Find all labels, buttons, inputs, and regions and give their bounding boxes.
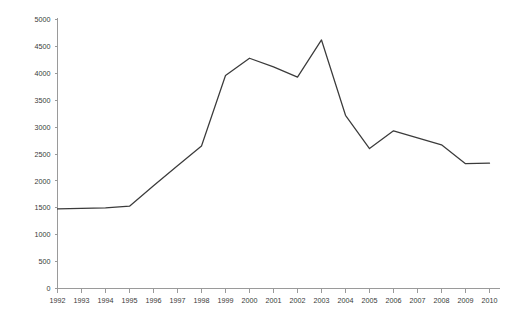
x-tick-label: 1998: [194, 296, 210, 305]
y-tick-label: 2000: [35, 177, 51, 186]
x-tick-label: 2010: [482, 296, 498, 305]
y-tick-label: 2500: [35, 150, 51, 159]
x-tick-label: 2000: [242, 296, 258, 305]
y-tick-label: 3500: [35, 96, 51, 105]
x-tick-label: 2006: [386, 296, 402, 305]
y-tick-label: 1500: [35, 203, 51, 212]
x-tick-label: 1996: [146, 296, 162, 305]
x-tick-label: 2009: [458, 296, 474, 305]
line-chart: 0500100015002000250030003500400045005000…: [0, 0, 508, 320]
x-tick-label: 1995: [122, 296, 138, 305]
x-tick-label: 2002: [290, 296, 306, 305]
x-tick-label: 2001: [266, 296, 282, 305]
x-tick-label: 2003: [314, 296, 330, 305]
y-tick-label: 5000: [35, 15, 51, 24]
x-tick-label: 1997: [170, 296, 186, 305]
x-tick-label: 2007: [410, 296, 426, 305]
x-tick-label: 1999: [218, 296, 234, 305]
y-tick-label: 3000: [35, 123, 51, 132]
y-tick-label: 500: [39, 257, 51, 266]
x-tick-label: 1992: [50, 296, 66, 305]
chart-canvas: 0500100015002000250030003500400045005000…: [0, 0, 508, 320]
x-tick-label: 2008: [434, 296, 450, 305]
x-tick-label: 2005: [362, 296, 378, 305]
x-tick-label: 1993: [74, 296, 90, 305]
x-tick-label: 1994: [98, 296, 114, 305]
x-tick-label: 2004: [338, 296, 354, 305]
chart-background: [0, 0, 508, 320]
y-tick-label: 1000: [35, 230, 51, 239]
y-tick-label: 4000: [35, 69, 51, 78]
y-tick-label: 4500: [35, 42, 51, 51]
y-tick-label: 0: [47, 284, 51, 293]
